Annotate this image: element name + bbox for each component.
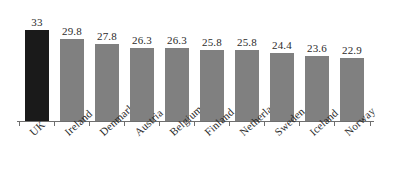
x-axis-tick <box>299 122 300 126</box>
x-axis-tick <box>89 122 90 126</box>
bar-rect <box>95 44 119 121</box>
bar-value-label: 24.4 <box>272 39 292 51</box>
bar: 25.8 <box>200 50 224 121</box>
bar-value-label: 27.8 <box>97 30 117 42</box>
bar-value-label: 22.9 <box>342 44 362 56</box>
x-axis-tick <box>159 122 160 126</box>
bar: 26.3 <box>130 48 154 121</box>
bar-chart: 33UK29.8Ireland27.8Denmark26.3Austria26.… <box>0 0 398 183</box>
bar-value-label: 25.8 <box>202 36 222 48</box>
x-axis-tick <box>229 122 230 126</box>
x-axis-tick <box>124 122 125 126</box>
x-axis-tick <box>334 122 335 126</box>
bar-rect <box>200 50 224 121</box>
bar-rect <box>130 48 154 121</box>
bar-value-label: 29.8 <box>62 25 82 37</box>
plot-area: 33UK29.8Ireland27.8Denmark26.3Austria26.… <box>0 0 398 183</box>
x-axis-tick <box>264 122 265 126</box>
bar-value-label: 33 <box>31 16 42 28</box>
bar: 26.3 <box>165 48 189 121</box>
bar: 27.8 <box>95 44 119 121</box>
x-axis-tick <box>19 122 20 126</box>
x-axis-tick <box>370 122 371 126</box>
x-axis-tick <box>54 122 55 126</box>
bar: 25.8 <box>235 50 259 121</box>
bar: 29.8 <box>60 39 84 121</box>
bar-value-label: 26.3 <box>132 34 152 46</box>
bar-value-label: 23.6 <box>307 42 327 54</box>
bar-value-label: 26.3 <box>167 34 187 46</box>
x-axis-tick <box>194 122 195 126</box>
bar-value-label: 25.8 <box>237 36 257 48</box>
bar-rect <box>235 50 259 121</box>
bar: 33 <box>25 30 49 121</box>
bar-rect <box>165 48 189 121</box>
bar-rect-highlighted <box>25 30 49 121</box>
bar-rect <box>60 39 84 121</box>
